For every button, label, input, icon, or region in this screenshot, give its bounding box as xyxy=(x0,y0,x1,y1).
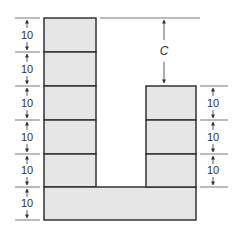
block xyxy=(146,86,196,120)
dimension-label: 10 xyxy=(21,63,33,75)
dimension-label: 10 xyxy=(21,164,33,176)
gap-label: C xyxy=(160,44,169,58)
block xyxy=(146,154,196,187)
block xyxy=(44,120,96,154)
block xyxy=(44,52,96,86)
u-shape-diagram: 10 10 10 10 10 10 C 10 10 10 xyxy=(0,0,235,240)
right-column xyxy=(146,86,196,187)
block xyxy=(44,18,96,52)
dimension-label: 10 xyxy=(21,97,33,109)
dimension-label: 10 xyxy=(21,197,33,209)
base-block xyxy=(44,187,196,220)
left-dimensions xyxy=(15,18,40,220)
dimension-label: 10 xyxy=(207,131,219,143)
dimension-label: 10 xyxy=(207,164,219,176)
block xyxy=(44,86,96,120)
left-column xyxy=(44,18,96,187)
block xyxy=(146,120,196,154)
dimension-label: 10 xyxy=(21,131,33,143)
dimension-label: 10 xyxy=(21,29,33,41)
block xyxy=(44,154,96,187)
right-dimension-labels: 10 10 10 xyxy=(207,97,219,176)
dimension-label: 10 xyxy=(207,97,219,109)
gap-dimension xyxy=(100,18,200,83)
